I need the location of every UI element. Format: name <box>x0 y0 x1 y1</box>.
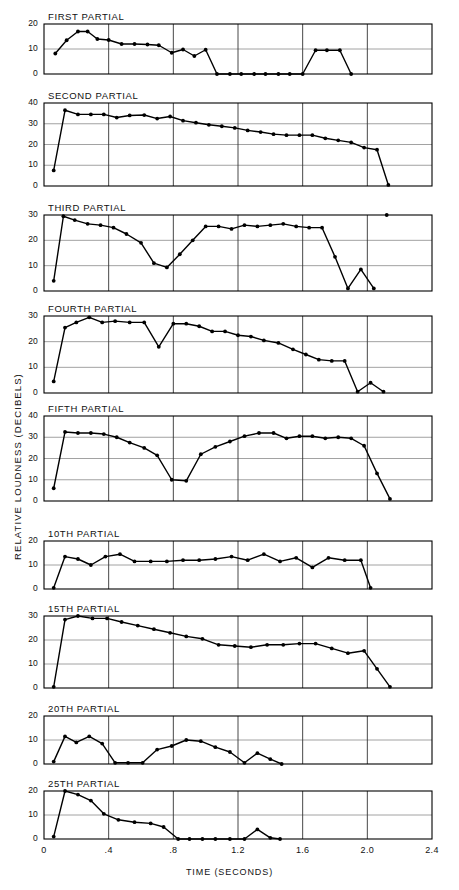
data-point-marker <box>52 760 56 764</box>
data-series-line <box>54 616 390 687</box>
data-point-marker <box>133 560 137 564</box>
data-point-marker <box>105 617 109 621</box>
data-point-marker <box>125 232 129 236</box>
data-point-marker <box>388 497 392 501</box>
panel-title-3: THIRD PARTIAL <box>48 202 126 213</box>
data-point-marker <box>249 645 253 649</box>
panel-title-8: 20TH PARTIAL <box>48 703 120 714</box>
data-point-marker <box>236 333 240 337</box>
data-point-marker <box>246 558 250 562</box>
data-point-marker <box>307 226 311 230</box>
data-point-marker <box>76 30 80 34</box>
data-point-marker <box>152 627 156 631</box>
panel-plot-3 <box>0 214 459 292</box>
data-point-marker <box>142 321 146 325</box>
data-point-marker <box>228 750 232 754</box>
data-point-marker <box>359 558 363 562</box>
data-point-marker <box>362 444 366 448</box>
data-point-marker <box>246 128 250 132</box>
data-point-marker <box>136 624 140 628</box>
data-point-marker <box>116 818 120 822</box>
data-point-marker <box>178 252 182 256</box>
data-point-marker <box>157 43 161 47</box>
data-point-marker <box>336 138 340 142</box>
data-point-marker <box>327 556 331 560</box>
data-point-marker <box>76 113 80 117</box>
data-point-marker <box>184 635 188 639</box>
data-point-marker <box>52 486 56 490</box>
data-point-marker <box>86 222 90 226</box>
data-point-marker <box>155 748 159 752</box>
panel-title-6: 10TH PARTIAL <box>48 528 120 539</box>
data-point-marker <box>52 586 56 590</box>
data-point-marker <box>89 431 93 435</box>
data-point-marker <box>213 557 217 561</box>
data-point-marker <box>369 381 373 385</box>
data-point-marker <box>213 837 217 841</box>
x-tick-label: 2.0 <box>347 845 387 855</box>
data-point-marker <box>126 761 130 765</box>
data-point-marker <box>139 241 143 245</box>
data-point-marker <box>152 261 156 265</box>
data-point-marker <box>63 735 67 739</box>
data-point-marker <box>338 48 342 52</box>
data-point-marker <box>285 133 289 137</box>
data-point-marker <box>62 214 66 218</box>
data-point-marker <box>87 735 91 739</box>
data-point-marker <box>168 631 172 635</box>
data-point-marker <box>259 130 263 134</box>
data-point-marker <box>323 436 327 440</box>
data-point-marker <box>184 738 188 742</box>
data-point-marker <box>199 739 203 743</box>
data-point-marker <box>223 330 227 334</box>
data-point-marker <box>181 48 185 52</box>
panel-title-1: FIRST PARTIAL <box>48 11 124 22</box>
panel-plot-1 <box>0 23 459 75</box>
data-point-marker <box>155 117 159 121</box>
data-point-marker <box>170 478 174 482</box>
data-point-marker <box>76 557 80 561</box>
data-point-marker <box>281 222 285 226</box>
data-point-marker <box>256 225 260 229</box>
data-point-marker <box>239 72 243 76</box>
data-point-marker <box>298 642 302 646</box>
data-point-marker <box>128 114 132 118</box>
data-point-marker <box>210 330 214 334</box>
data-point-marker <box>317 358 321 362</box>
data-point-marker <box>325 48 329 52</box>
data-point-marker <box>128 441 132 445</box>
data-point-marker <box>349 72 353 76</box>
data-point-marker <box>362 649 366 653</box>
panel-plot-5 <box>0 415 459 502</box>
data-point-marker <box>272 431 276 435</box>
x-tick-label: 1.2 <box>218 845 258 855</box>
data-point-marker <box>120 42 124 46</box>
data-point-marker <box>115 435 119 439</box>
data-point-marker <box>343 359 347 363</box>
data-point-marker <box>100 321 104 325</box>
data-point-marker <box>310 133 314 137</box>
data-point-marker <box>230 555 234 559</box>
data-point-marker <box>336 435 340 439</box>
data-point-marker <box>146 43 150 47</box>
x-axis-label: TIME (SECONDS) <box>0 867 459 877</box>
data-point-marker <box>107 38 111 42</box>
data-point-marker <box>220 124 224 128</box>
data-point-marker <box>228 440 232 444</box>
data-point-marker <box>233 644 237 648</box>
data-point-marker <box>294 556 298 560</box>
data-point-marker <box>181 558 185 562</box>
data-point-marker <box>372 287 376 291</box>
data-point-marker <box>120 620 124 624</box>
data-point-marker <box>215 72 219 76</box>
data-point-marker <box>53 52 57 56</box>
data-point-marker <box>168 115 172 119</box>
x-tick-label: 0 <box>24 845 64 855</box>
data-point-marker <box>76 793 80 797</box>
data-point-marker <box>277 72 281 76</box>
data-point-marker <box>52 380 56 384</box>
data-point-marker <box>74 321 78 325</box>
data-point-marker <box>217 225 221 229</box>
data-point-marker <box>128 321 132 325</box>
data-point-marker <box>52 685 56 689</box>
